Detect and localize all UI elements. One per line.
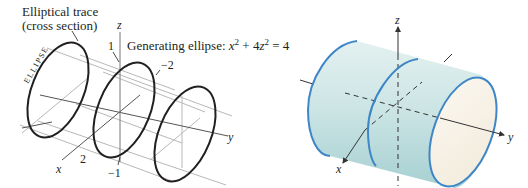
tick-label-z-pos: 1 <box>108 39 114 53</box>
grid-lines <box>20 48 232 185</box>
x-axis-label-left: x <box>55 162 62 176</box>
eq-equals: = 4 <box>269 38 290 53</box>
eq-plus: + 4 <box>239 38 260 53</box>
tick-label-z-neg: −1 <box>108 166 121 180</box>
axis-lines <box>22 95 228 136</box>
figure-canvas: Elliptical trace (cross section) ELLIPSE… <box>0 0 528 188</box>
left-panel: Elliptical trace (cross section) ELLIPSE… <box>15 4 290 188</box>
z-axis-label-left: z <box>116 18 122 32</box>
ellipse-side-label: ELLIPSE <box>22 44 51 85</box>
z-axis-label-right: z <box>394 13 400 27</box>
tick-label-x-neg: −2 <box>161 58 174 72</box>
generating-text: Generating ellipse: <box>127 38 229 53</box>
tick-label-x-pos: 2 <box>80 152 86 166</box>
x-axis-back-stub <box>300 80 313 84</box>
title-line-1: Elliptical trace <box>22 4 98 19</box>
x-axis-label-right: x <box>335 162 342 176</box>
trace-ellipse-1 <box>15 34 101 146</box>
elliptic-cylinder-figure: Elliptical trace (cross section) ELLIPSE… <box>0 0 528 188</box>
axis-back-stub-top <box>444 54 452 62</box>
title-line-2: (cross section) <box>22 18 97 33</box>
y-axis-label-left: y <box>227 130 234 144</box>
y-axis-label-right: y <box>507 130 514 144</box>
generating-ellipse-label: Generating ellipse: x2 + 4z2 = 4 <box>127 37 290 53</box>
right-panel: z x y <box>300 13 514 188</box>
